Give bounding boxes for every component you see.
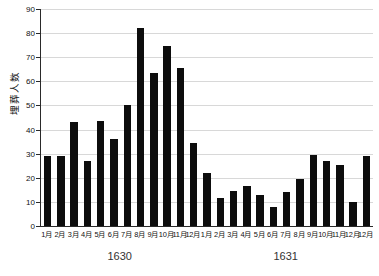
- bar: [363, 156, 370, 226]
- y-tick-label: 40: [26, 125, 35, 134]
- bar: [57, 156, 64, 226]
- bar: [256, 195, 263, 226]
- bar: [163, 46, 170, 226]
- bar: [70, 122, 77, 226]
- x-tick-label: 2月: [214, 228, 225, 239]
- y-tick-label: 30: [26, 149, 35, 158]
- x-tick-label: 4月: [81, 228, 92, 239]
- y-tick-label: 80: [26, 29, 35, 38]
- x-tick-label: 11月: [172, 228, 186, 239]
- x-tick-label: 4月: [240, 228, 251, 239]
- y-tick-label: 90: [26, 5, 35, 14]
- x-tick-label: 1月: [201, 228, 212, 239]
- y-tick-label: 60: [26, 77, 35, 86]
- bar: [124, 105, 131, 226]
- year-label: 1630: [107, 250, 131, 262]
- x-axis-labels: 1月2月3月4月5月6月7月8月9月10月11月12月1月2月3月4月5月6月7…: [40, 228, 372, 241]
- bar: [296, 179, 303, 226]
- bar: [203, 173, 210, 226]
- x-tick-label: 12月: [358, 228, 373, 239]
- x-tick-label: 7月: [121, 228, 132, 239]
- bar: [137, 28, 144, 226]
- x-tick-label: 3月: [227, 228, 238, 239]
- x-tick-label: 8月: [134, 228, 145, 239]
- x-tick-label: 6月: [108, 228, 119, 239]
- bar: [190, 143, 197, 226]
- bar: [336, 165, 343, 226]
- bar: [217, 198, 224, 226]
- bar: [150, 73, 157, 226]
- bar: [323, 161, 330, 226]
- y-tick-label: 70: [26, 53, 35, 62]
- x-tick-label: 5月: [94, 228, 105, 239]
- y-tick-label: 20: [26, 173, 35, 182]
- x-tick-label: 7月: [280, 228, 291, 239]
- bar: [243, 186, 250, 226]
- bar: [270, 207, 277, 226]
- x-tick-label: 12月: [185, 228, 200, 239]
- bar-series: [41, 9, 373, 226]
- x-tick-label: 10月: [159, 228, 174, 239]
- x-tick-label: 2月: [55, 228, 66, 239]
- x-tick-label: 5月: [254, 228, 265, 239]
- bar: [84, 161, 91, 226]
- y-tick-label: 0: [31, 222, 35, 231]
- x-tick-label: 9月: [307, 228, 318, 239]
- bar: [44, 156, 51, 226]
- x-tick-label: 10月: [318, 228, 333, 239]
- x-tick-label: 1月: [41, 228, 52, 239]
- y-tick-label: 50: [26, 101, 35, 110]
- bar: [349, 202, 356, 226]
- y-axis-ticks: 0102030405060708090: [0, 0, 40, 236]
- bar: [283, 192, 290, 226]
- bar: [310, 155, 317, 226]
- bar: [97, 121, 104, 226]
- burials-bar-chart: 埋葬人数 0102030405060708090 1月2月3月4月5月6月7月8…: [0, 0, 379, 276]
- plot-area: [40, 9, 373, 227]
- y-tick-label: 10: [26, 197, 35, 206]
- x-tick-label: 9月: [148, 228, 159, 239]
- x-tick-label: 3月: [68, 228, 79, 239]
- year-group-labels: 16301631: [40, 250, 372, 268]
- x-tick-label: 6月: [267, 228, 278, 239]
- x-tick-label: 8月: [294, 228, 305, 239]
- bar: [230, 191, 237, 226]
- bar: [110, 139, 117, 226]
- bar: [177, 68, 184, 226]
- year-label: 1631: [273, 250, 297, 262]
- x-tick-label: 11月: [332, 228, 346, 239]
